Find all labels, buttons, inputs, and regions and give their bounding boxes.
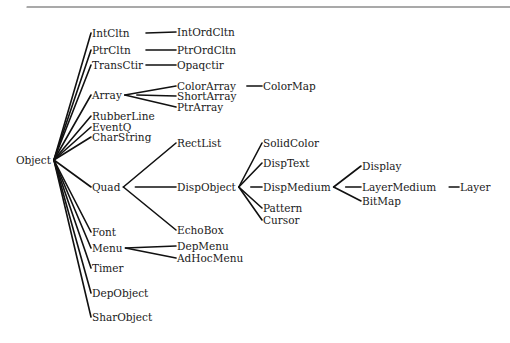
edge-quad-echobox <box>123 187 176 230</box>
node-opaqctir: Opaqctir <box>177 59 224 71</box>
node-pattern: Pattern <box>263 202 302 214</box>
edge-object-font <box>54 160 91 232</box>
node-depobject: DepObject <box>92 287 148 299</box>
node-intcltn: IntCltn <box>92 27 130 39</box>
edge-dispmedium-display <box>334 166 361 187</box>
edge-layer <box>0 0 510 343</box>
node-ptrordcltn: PtrOrdCltn <box>177 44 236 56</box>
node-timer: Timer <box>92 262 124 274</box>
node-dispmedium: DispMedium <box>263 181 331 193</box>
node-cursor: Cursor <box>263 214 300 226</box>
edge-quad-rectlist <box>123 143 176 187</box>
node-menu: Menu <box>92 242 123 254</box>
edge-menu-adhocmenu <box>126 248 177 258</box>
node-solidcolor: SolidColor <box>263 137 319 149</box>
edge-object-depobject <box>54 160 91 293</box>
node-layermedium: LayerMedium <box>362 181 436 193</box>
edge-dispobject-cursor <box>239 187 262 220</box>
node-adhocmenu: AdHocMenu <box>177 252 243 264</box>
edge-object-rubberline <box>54 116 91 160</box>
edge-object-transctir <box>54 65 91 160</box>
node-depmenu: DepMenu <box>177 240 229 252</box>
edge-dispmedium-bitmap <box>334 187 361 201</box>
node-font: Font <box>92 226 116 238</box>
edge-array-colorarray <box>125 86 176 95</box>
edge-array-shortarray <box>137 95 176 96</box>
node-array: Array <box>92 89 122 101</box>
node-object: Object <box>16 154 51 166</box>
node-echobox: EchoBox <box>177 224 224 236</box>
node-ptrcltn: PtrCltn <box>92 44 131 56</box>
class-hierarchy-diagram: Object IntCltn PtrCltn TransCtir Array R… <box>0 0 510 343</box>
node-disptext: DispText <box>263 157 309 169</box>
edge-object-timer <box>54 160 91 268</box>
node-transctir: TransCtir <box>92 59 143 71</box>
node-intordcltn: IntOrdCltn <box>177 26 235 38</box>
node-layer: Layer <box>460 181 490 193</box>
node-charstring: CharString <box>92 131 151 143</box>
node-bitmap: BitMap <box>362 195 401 207</box>
node-sharobject: SharObject <box>92 311 152 323</box>
node-ptrarray: PtrArray <box>177 101 223 113</box>
node-colormap: ColorMap <box>263 80 316 92</box>
node-display: Display <box>362 160 401 172</box>
node-dispobject: DispObject <box>177 181 236 193</box>
edge-array-ptrarray <box>125 95 176 107</box>
node-quad: Quad <box>92 181 120 193</box>
edge-intcltn-intordcltn <box>146 32 176 33</box>
edge-dispobject-solidcolor <box>239 143 262 187</box>
edge-menu-depmenu <box>126 246 177 248</box>
node-rectlist: RectList <box>177 137 221 149</box>
